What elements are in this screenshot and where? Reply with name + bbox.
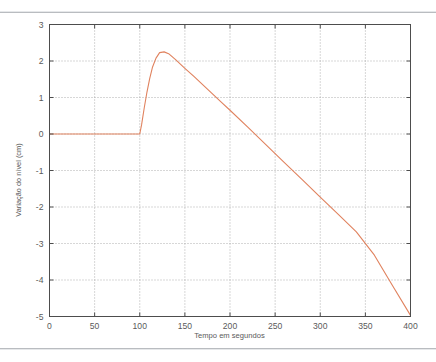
y-tick-label: -2 — [36, 202, 44, 212]
y-tick-label: 2 — [39, 56, 44, 66]
x-tick-label: 100 — [133, 321, 148, 331]
y-tick-label: -3 — [36, 239, 44, 249]
y-tick-label: -4 — [36, 275, 44, 285]
x-tick-label: 400 — [403, 321, 418, 331]
x-axis-label: Tempo em segundos — [49, 331, 410, 340]
y-tick-label: -5 — [36, 312, 44, 322]
gridlines — [50, 25, 411, 317]
axis-ticks: 3210-1-2-3-4-5050100150200250300350400 — [36, 20, 418, 331]
y-tick-label: 1 — [39, 93, 44, 103]
x-tick-label: 0 — [47, 321, 52, 331]
x-tick-label: 150 — [178, 321, 193, 331]
y-tick-label: -1 — [36, 166, 44, 176]
y-tick-label: 3 — [39, 20, 44, 30]
x-tick-label: 350 — [358, 321, 373, 331]
y-tick-label: 0 — [39, 129, 44, 139]
x-tick-label: 300 — [313, 321, 328, 331]
plot-area-wrapper: 3210-1-2-3-4-5050100150200250300350400 V… — [0, 0, 436, 362]
x-tick-label: 50 — [90, 321, 100, 331]
y-axis-label-text: Variação do nível (cm) — [14, 110, 23, 250]
line-chart: 3210-1-2-3-4-5050100150200250300350400 — [0, 0, 436, 362]
figure-bottom-hairline — [0, 349, 436, 350]
y-axis-label: Variação do nível (cm) — [14, 112, 28, 252]
x-tick-label: 250 — [268, 321, 283, 331]
figure-container: 3210-1-2-3-4-5050100150200250300350400 V… — [0, 0, 436, 362]
x-tick-label: 200 — [223, 321, 238, 331]
